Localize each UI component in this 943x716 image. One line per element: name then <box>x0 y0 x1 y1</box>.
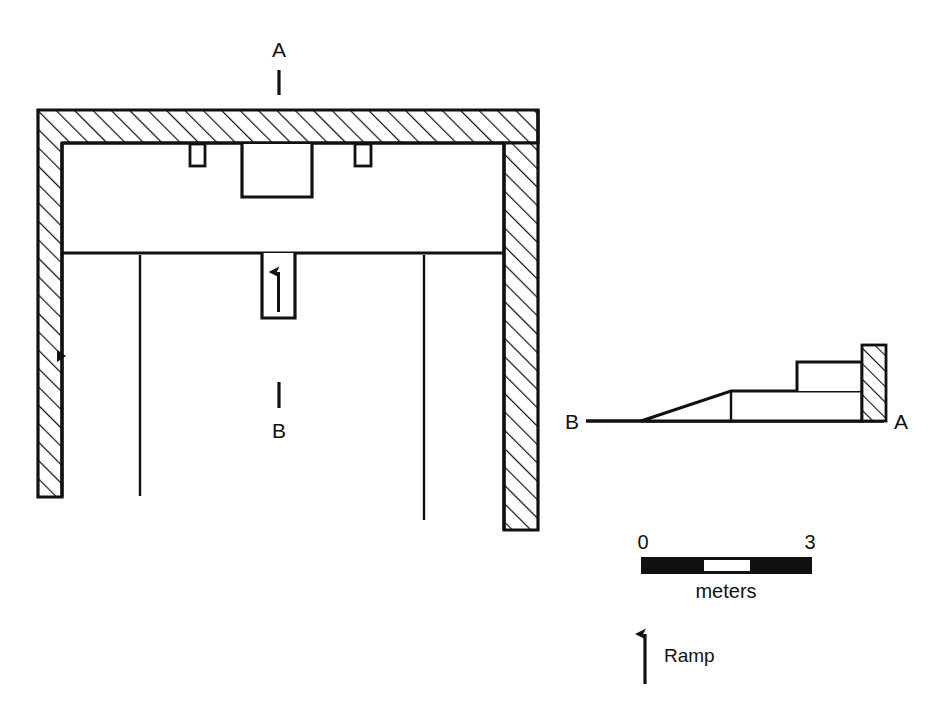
section-view: B A <box>565 345 908 433</box>
section-upper-step <box>797 362 862 391</box>
top-wall-features <box>190 144 371 197</box>
wall-right <box>504 110 538 530</box>
notch-left <box>190 144 205 166</box>
legend-ramp: Ramp <box>645 634 715 684</box>
plan-view: A B <box>38 38 538 530</box>
scale-unit-label: meters <box>695 580 756 602</box>
section-wall-hatched <box>862 345 886 421</box>
legend-ramp-label: Ramp <box>664 645 715 666</box>
notch-right <box>355 144 371 166</box>
section-ramp-and-platform <box>641 391 862 421</box>
section-label-a: A <box>894 410 908 433</box>
ramp-box <box>262 253 295 318</box>
scale-start-label: 0 <box>637 531 648 553</box>
section-label-a-plan: A <box>272 38 286 61</box>
scale-bar-white-segment <box>704 560 750 571</box>
figure-root: A B B A 0 3 meters <box>0 0 943 716</box>
architectural-drawing: A B B A 0 3 meters <box>0 0 943 716</box>
section-label-b-plan: B <box>272 419 286 442</box>
section-label-b: B <box>565 410 579 433</box>
scale-end-label: 3 <box>804 531 815 553</box>
central-block <box>242 144 312 197</box>
scale-bar: 0 3 meters <box>637 531 815 602</box>
